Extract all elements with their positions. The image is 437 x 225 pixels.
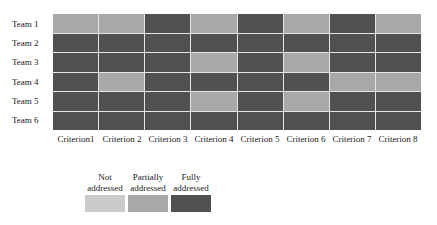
column-label: Criterion 8 bbox=[375, 134, 421, 144]
heatmap-cell bbox=[330, 92, 375, 111]
heatmap-cell bbox=[330, 112, 375, 131]
row-label: Team 2 bbox=[0, 38, 50, 48]
heatmap-cell bbox=[238, 34, 283, 53]
heatmap-cell bbox=[53, 92, 98, 111]
heatmap-cell bbox=[145, 73, 190, 92]
heatmap-cell bbox=[330, 73, 375, 92]
heatmap-cell bbox=[145, 112, 190, 131]
heatmap-cell bbox=[191, 14, 236, 33]
heatmap-cell bbox=[238, 73, 283, 92]
column-label: Criterion 6 bbox=[283, 134, 329, 144]
heatmap-cell bbox=[145, 34, 190, 53]
heatmap-cell bbox=[376, 34, 421, 53]
heatmap-cell bbox=[284, 53, 329, 72]
row-label: Team 4 bbox=[0, 77, 50, 87]
heatmap-cell bbox=[330, 14, 375, 33]
heatmap-cell bbox=[284, 73, 329, 92]
legend-label: Fullyaddressed bbox=[170, 172, 212, 193]
heatmap-cell bbox=[53, 34, 98, 53]
column-label: Criterion1 bbox=[53, 134, 99, 144]
column-label: Criterion 5 bbox=[237, 134, 283, 144]
legend-swatch-partial bbox=[128, 195, 168, 212]
heatmap-cell bbox=[99, 73, 144, 92]
legend-swatch-full bbox=[171, 195, 211, 212]
heatmap-cell bbox=[53, 112, 98, 131]
heatmap-cell bbox=[99, 92, 144, 111]
heatmap-cell bbox=[191, 34, 236, 53]
heatmap-cell bbox=[330, 34, 375, 53]
heatmap-cell bbox=[376, 53, 421, 72]
row-label: Team 5 bbox=[0, 96, 50, 106]
heatmap-cell bbox=[191, 53, 236, 72]
heatmap-cell bbox=[99, 112, 144, 131]
heatmap-cell bbox=[376, 14, 421, 33]
column-label: Criterion 7 bbox=[329, 134, 375, 144]
heatmap-cell bbox=[53, 53, 98, 72]
heatmap-cell bbox=[53, 14, 98, 33]
column-label: Criterion 3 bbox=[145, 134, 191, 144]
heatmap-grid bbox=[53, 14, 421, 130]
row-label: Team 1 bbox=[0, 19, 50, 29]
heatmap-cell bbox=[99, 53, 144, 72]
column-label: Criterion 2 bbox=[99, 134, 145, 144]
column-label: Criterion 4 bbox=[191, 134, 237, 144]
heatmap-cell bbox=[191, 112, 236, 131]
heatmap-cell bbox=[376, 92, 421, 111]
legend-swatch-not bbox=[85, 195, 125, 212]
heatmap-cell bbox=[284, 14, 329, 33]
heatmap-cell bbox=[284, 92, 329, 111]
row-label: Team 3 bbox=[0, 57, 50, 67]
heatmap-cell bbox=[99, 14, 144, 33]
heatmap-cell bbox=[145, 14, 190, 33]
heatmap-cell bbox=[99, 34, 144, 53]
heatmap-cell bbox=[145, 53, 190, 72]
heatmap-cell bbox=[191, 73, 236, 92]
heatmap-cell bbox=[376, 112, 421, 131]
legend-label: Notaddressed bbox=[84, 172, 126, 193]
heatmap-cell bbox=[145, 92, 190, 111]
heatmap-cell bbox=[330, 53, 375, 72]
heatmap-cell bbox=[238, 14, 283, 33]
heatmap-cell bbox=[191, 92, 236, 111]
row-label: Team 6 bbox=[0, 115, 50, 125]
heatmap-cell bbox=[53, 73, 98, 92]
heatmap-cell bbox=[238, 53, 283, 72]
heatmap-cell bbox=[284, 112, 329, 131]
heatmap-cell bbox=[284, 34, 329, 53]
heatmap-cell bbox=[238, 112, 283, 131]
heatmap-cell bbox=[238, 92, 283, 111]
heatmap-cell bbox=[376, 73, 421, 92]
legend-label: Partiallyaddressed bbox=[127, 172, 169, 193]
